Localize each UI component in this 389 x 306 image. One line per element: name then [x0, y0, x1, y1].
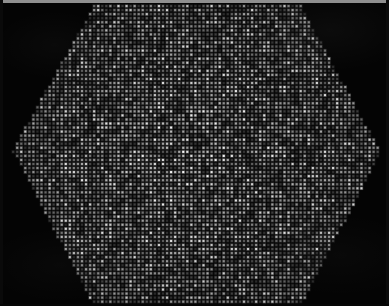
dot-lattice-canvas [0, 0, 389, 306]
hexagonal-dot-array [0, 0, 389, 306]
micrograph-figure [0, 0, 389, 306]
